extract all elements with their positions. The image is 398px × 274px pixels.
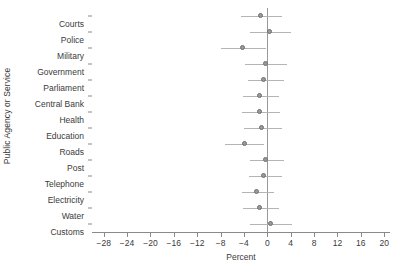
data-point-marker xyxy=(259,125,264,130)
chart-figure: Public Agency or Service CourtsPoliceMil… xyxy=(0,0,398,274)
plot-area xyxy=(92,8,390,232)
x-axis-tick-mark xyxy=(267,233,268,237)
x-axis-tick-label: 16 xyxy=(356,238,365,248)
data-point-marker xyxy=(257,93,262,98)
zero-reference-line xyxy=(267,8,268,232)
x-axis-tick-mark xyxy=(384,233,385,237)
data-point-marker xyxy=(263,157,268,162)
x-axis-tick-label: −12 xyxy=(190,238,204,248)
x-axis-tick-label: −4 xyxy=(239,238,249,248)
y-axis-tick-label: Telephone xyxy=(45,179,84,189)
y-axis-tick-mark xyxy=(88,128,92,129)
data-point-marker xyxy=(263,61,268,66)
y-axis-tick-label: Education xyxy=(46,131,84,141)
x-axis-tick-label: 12 xyxy=(333,238,342,248)
y-axis-tick-labels: CourtsPoliceMilitaryGovernmentParliament… xyxy=(14,8,88,232)
x-axis-tick-mark xyxy=(104,233,105,237)
x-axis-tick-mark xyxy=(314,233,315,237)
x-axis-tick-mark xyxy=(150,233,151,237)
x-axis-tick-label: −8 xyxy=(216,238,226,248)
y-axis-tick-label: Health xyxy=(59,115,84,125)
y-axis-tick-mark xyxy=(88,112,92,113)
data-point-marker xyxy=(240,45,245,50)
y-axis-tick-label: Post xyxy=(67,163,84,173)
y-axis-tick-mark xyxy=(88,160,92,161)
data-point-marker xyxy=(258,13,263,18)
y-axis-tick-label: Police xyxy=(61,35,84,45)
x-axis-tick-mark xyxy=(221,233,222,237)
x-axis-tick-label: 0 xyxy=(265,238,270,248)
y-axis-tick-label: Water xyxy=(62,211,84,221)
y-axis-tick-label: Military xyxy=(57,51,84,61)
y-axis-tick-label: Government xyxy=(37,67,84,77)
y-axis-tick-label: Roads xyxy=(59,147,84,157)
x-axis-tick-label: −24 xyxy=(120,238,134,248)
x-axis-tick-label: −16 xyxy=(167,238,181,248)
x-axis-tick-label: −20 xyxy=(143,238,157,248)
data-point-marker xyxy=(257,109,262,114)
y-axis-tick-mark xyxy=(88,32,92,33)
data-point-marker xyxy=(268,221,273,226)
y-axis-tick-mark xyxy=(88,16,92,17)
y-axis-tick-label: Courts xyxy=(59,19,84,29)
y-axis-tick-mark xyxy=(88,176,92,177)
y-axis-tick-label: Electricity xyxy=(48,195,84,205)
x-axis-tick-mark xyxy=(127,233,128,237)
y-axis-tick-mark xyxy=(88,80,92,81)
x-axis-tick-mark xyxy=(361,233,362,237)
data-point-marker xyxy=(254,189,259,194)
y-axis-tick-mark xyxy=(88,192,92,193)
y-axis-title: Public Agency or Service xyxy=(0,0,14,232)
x-axis-tick-label: −28 xyxy=(96,238,110,248)
y-axis-tick-mark xyxy=(88,96,92,97)
x-axis-title: Percent xyxy=(92,252,390,262)
y-axis-tick-mark xyxy=(88,208,92,209)
y-axis-tick-mark xyxy=(88,48,92,49)
x-axis-tick-mark xyxy=(244,233,245,237)
y-axis-tick-label: Parliament xyxy=(43,83,84,93)
data-point-marker xyxy=(267,29,272,34)
x-axis-tick-mark xyxy=(174,233,175,237)
x-axis-tick-mark xyxy=(197,233,198,237)
x-axis-tick-label: 20 xyxy=(379,238,388,248)
y-axis-tick-mark xyxy=(88,64,92,65)
y-axis-tick-label: Customs xyxy=(50,227,84,237)
data-point-marker xyxy=(242,141,247,146)
y-axis-tick-label: Central Bank xyxy=(35,99,84,109)
y-axis-title-text: Public Agency or Service xyxy=(2,68,12,164)
data-point-marker xyxy=(257,205,262,210)
y-axis-tick-mark xyxy=(88,144,92,145)
data-point-marker xyxy=(261,173,266,178)
x-axis-ticks: −28−24−20−16−12−8−4048121620 xyxy=(92,233,390,253)
x-axis-tick-mark xyxy=(337,233,338,237)
x-axis-tick-mark xyxy=(291,233,292,237)
y-axis-tick-mark xyxy=(88,224,92,225)
data-point-marker xyxy=(261,77,266,82)
x-axis-tick-label: 8 xyxy=(312,238,317,248)
x-axis-tick-label: 4 xyxy=(288,238,293,248)
